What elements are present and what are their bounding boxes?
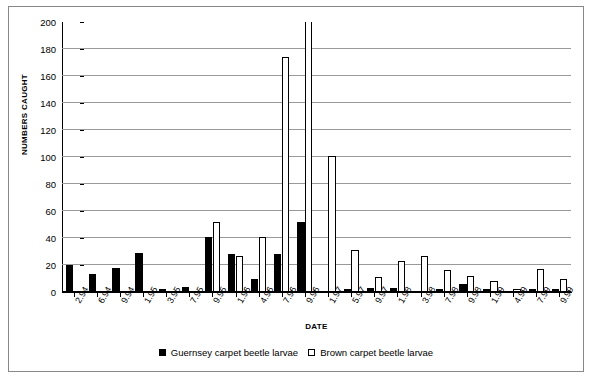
bar-group bbox=[502, 22, 525, 292]
bar-group bbox=[478, 22, 501, 292]
chart-legend: Guernsey carpet beetle larvaeBrown carpe… bbox=[0, 347, 592, 358]
bar-group bbox=[131, 22, 154, 292]
bar-group bbox=[386, 22, 409, 292]
plot-area bbox=[62, 22, 571, 292]
bar-group bbox=[455, 22, 478, 292]
y-tick-label: 40 bbox=[45, 233, 56, 244]
bar-group bbox=[293, 22, 316, 292]
bar bbox=[205, 237, 212, 292]
bar bbox=[112, 268, 119, 292]
y-tick-label: 0 bbox=[51, 287, 56, 298]
y-tick-label: 20 bbox=[45, 260, 56, 271]
bar-group bbox=[85, 22, 108, 292]
y-tick-label: 180 bbox=[40, 44, 56, 55]
hollow-square-icon bbox=[308, 349, 315, 356]
y-tick-label: 140 bbox=[40, 98, 56, 109]
x-axis-ticks: 2.946.949.941.953.957.959.951.964.967.96… bbox=[62, 292, 571, 338]
y-tick-label: 120 bbox=[40, 125, 56, 136]
legend-item: Guernsey carpet beetle larvae bbox=[159, 347, 298, 358]
bar bbox=[297, 222, 304, 292]
bar bbox=[328, 156, 335, 292]
bar-group bbox=[409, 22, 432, 292]
filled-square-icon bbox=[159, 349, 166, 356]
y-tick-label: 200 bbox=[40, 17, 56, 28]
y-tick-label: 100 bbox=[40, 152, 56, 163]
y-axis-ticks: 020406080100120140160180200 bbox=[22, 22, 62, 292]
bar bbox=[274, 254, 281, 292]
bar-group bbox=[224, 22, 247, 292]
bar bbox=[459, 284, 466, 292]
bar-group bbox=[432, 22, 455, 292]
bar-group bbox=[178, 22, 201, 292]
bar bbox=[305, 22, 312, 292]
legend-item: Brown carpet beetle larvae bbox=[308, 347, 433, 358]
bar-group bbox=[340, 22, 363, 292]
bar bbox=[66, 265, 73, 292]
x-axis-title: DATE bbox=[62, 322, 571, 331]
bars-layer bbox=[62, 22, 571, 292]
legend-label: Guernsey carpet beetle larvae bbox=[171, 347, 298, 358]
bar-group bbox=[62, 22, 85, 292]
chart-figure: NUMBERS CAUGHT 0204060801001201401601802… bbox=[0, 0, 592, 379]
legend-label: Brown carpet beetle larvae bbox=[320, 347, 433, 358]
bar-group bbox=[363, 22, 386, 292]
y-tick-label: 60 bbox=[45, 206, 56, 217]
y-tick-label: 160 bbox=[40, 71, 56, 82]
bar-group bbox=[201, 22, 224, 292]
bar bbox=[259, 237, 266, 292]
bar-group bbox=[247, 22, 270, 292]
bar-group bbox=[108, 22, 131, 292]
bar bbox=[213, 222, 220, 292]
bar-group bbox=[270, 22, 293, 292]
bar-group bbox=[317, 22, 340, 292]
bar-group bbox=[548, 22, 571, 292]
bar-group bbox=[525, 22, 548, 292]
bar bbox=[228, 254, 235, 292]
bar-group bbox=[155, 22, 178, 292]
y-tick-label: 80 bbox=[45, 179, 56, 190]
bar bbox=[135, 253, 142, 292]
bar bbox=[282, 57, 289, 292]
